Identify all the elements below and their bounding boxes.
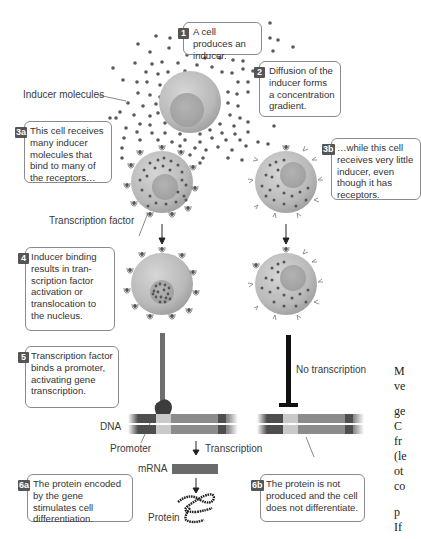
step-2-callout: 2 Diffusion of the inducer forms a conce… bbox=[259, 61, 341, 117]
arrows-to-step4 bbox=[159, 224, 289, 244]
step-badge: 6a bbox=[18, 480, 30, 491]
label-transcription: Transcription bbox=[205, 443, 262, 454]
margin-text: co bbox=[394, 479, 405, 494]
margin-text: ve bbox=[394, 379, 405, 394]
margin-text: If bbox=[394, 520, 402, 535]
step-6a-callout: 6a The protein encoded by the gene stimu… bbox=[27, 474, 133, 522]
step-badge: 6b bbox=[251, 480, 264, 491]
step-badge: 5 bbox=[18, 352, 29, 363]
label-inducer-molecules: Inducer molecules bbox=[23, 89, 104, 100]
producer-cell bbox=[159, 71, 221, 133]
label-no-transcription: No transcription bbox=[296, 364, 366, 375]
transcription-factor-bound bbox=[155, 399, 172, 414]
margin-text: C bbox=[394, 419, 402, 434]
step-badge: 1 bbox=[178, 28, 189, 39]
inactive-cell bbox=[248, 247, 323, 320]
receiving-cell-low bbox=[248, 145, 323, 218]
activated-cell bbox=[124, 247, 199, 319]
label-dna: DNA bbox=[100, 421, 121, 432]
margin-text: p bbox=[394, 505, 400, 520]
dna-left bbox=[128, 399, 238, 434]
step-3a-callout: 3a This cell receives many inducer molec… bbox=[24, 121, 112, 183]
label-transcription-factor: Transcription factor bbox=[49, 215, 134, 226]
label-mrna: mRNA bbox=[138, 463, 167, 474]
step-6b-callout: 6b The protein is not produced and the c… bbox=[260, 474, 365, 522]
receiving-cell-high bbox=[124, 145, 198, 217]
step-badge: 4 bbox=[18, 253, 29, 264]
label-promoter: Promoter bbox=[110, 443, 151, 454]
margin-text: ot bbox=[394, 464, 403, 479]
margin-text: ge bbox=[394, 404, 405, 419]
dna-right bbox=[257, 414, 364, 434]
step-badge: 3b bbox=[322, 144, 335, 155]
step-4-callout: 4 Inducer binding results in tran-script… bbox=[25, 247, 115, 331]
step-3b-callout: 3b …while this cell receives very little… bbox=[331, 138, 421, 200]
margin-text: (le bbox=[394, 449, 407, 464]
margin-text: M bbox=[394, 364, 405, 379]
step-badge: 2 bbox=[254, 67, 265, 78]
step-badge: 3a bbox=[15, 127, 27, 138]
label-protein: Protein bbox=[148, 512, 180, 523]
mrna-strand bbox=[172, 464, 218, 474]
step-5-callout: 5 Transcription factor binds a promoter,… bbox=[25, 346, 119, 408]
margin-text: fr bbox=[394, 434, 402, 449]
step-1-callout: 1 A cell produces an inducer. bbox=[183, 22, 262, 55]
protein-chain bbox=[178, 494, 214, 522]
